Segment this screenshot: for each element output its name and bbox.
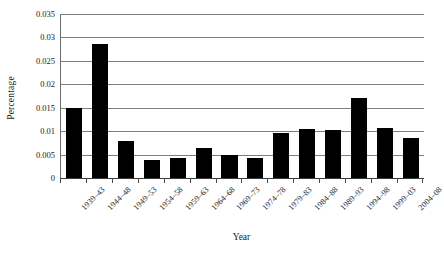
bar-slot — [346, 14, 372, 178]
x-tick-label-cell: 1949–53 — [112, 183, 138, 229]
x-axis-tick-labels: 1939–431944–481949–531954–581959–631964–… — [60, 183, 423, 229]
x-tick-label-cell: 1939–43 — [60, 183, 86, 229]
bar-slot — [320, 14, 346, 178]
y-tick-label: 0.035 — [36, 9, 55, 19]
bar-slot — [113, 14, 139, 178]
y-tick-label: 0.015 — [36, 103, 55, 113]
bar[interactable] — [170, 158, 186, 178]
bar[interactable] — [144, 160, 160, 178]
bar[interactable] — [196, 148, 212, 178]
bar[interactable] — [377, 128, 393, 178]
bar-slot — [165, 14, 191, 178]
bar-slot — [398, 14, 424, 178]
bar[interactable] — [403, 138, 419, 178]
y-tick-label: 0.03 — [40, 32, 55, 42]
x-tick-label-cell: 1994–98 — [345, 183, 371, 229]
y-tick-label: 0.01 — [40, 126, 55, 136]
bar[interactable] — [92, 44, 108, 178]
x-axis-title: Year — [60, 232, 423, 242]
y-tick-label: 0.02 — [40, 79, 55, 89]
x-tick-label-cell: 1989–93 — [319, 183, 345, 229]
x-tick-label-cell: 1964–68 — [190, 183, 216, 229]
y-axis-tick-labels: 00.0050.010.0150.020.0250.030.035 — [14, 14, 58, 178]
x-tick-label-cell: 1944–48 — [86, 183, 112, 229]
x-tick-label-cell: 1969–73 — [216, 183, 242, 229]
bar-slot — [139, 14, 165, 178]
bar[interactable] — [247, 158, 263, 178]
bar-slot — [217, 14, 243, 178]
bar-slot — [372, 14, 398, 178]
bars-layer — [61, 14, 424, 178]
x-tick-label-cell: 1984–88 — [293, 183, 319, 229]
bar-slot — [294, 14, 320, 178]
x-tick-label-cell: 1999–03 — [371, 183, 397, 229]
bar-slot — [191, 14, 217, 178]
bar-slot — [87, 14, 113, 178]
y-tick-label: 0 — [51, 173, 55, 183]
y-tick-label: 0.025 — [36, 56, 55, 66]
x-tick-label-cell: 1959–63 — [164, 183, 190, 229]
x-tick-label-cell: 1974–78 — [241, 183, 267, 229]
bar[interactable] — [118, 141, 134, 178]
bar-slot — [61, 14, 87, 178]
bar-slot — [242, 14, 268, 178]
x-tick-label: 2004–08 — [417, 185, 444, 212]
bar[interactable] — [299, 129, 315, 178]
x-tick-label-cell: 1954–58 — [138, 183, 164, 229]
bar-slot — [268, 14, 294, 178]
bar[interactable] — [351, 98, 367, 178]
bar-chart-figure: Percentage 00.0050.010.0150.020.0250.030… — [0, 0, 444, 258]
y-tick-label: 0.005 — [36, 150, 55, 160]
bar[interactable] — [66, 108, 82, 178]
bar[interactable] — [273, 133, 289, 178]
x-tick-label-cell: 2004–08 — [397, 183, 423, 229]
bar[interactable] — [221, 155, 237, 178]
bar[interactable] — [325, 130, 341, 178]
plot-area — [60, 14, 424, 178]
x-tick-label-cell: 1979–83 — [267, 183, 293, 229]
